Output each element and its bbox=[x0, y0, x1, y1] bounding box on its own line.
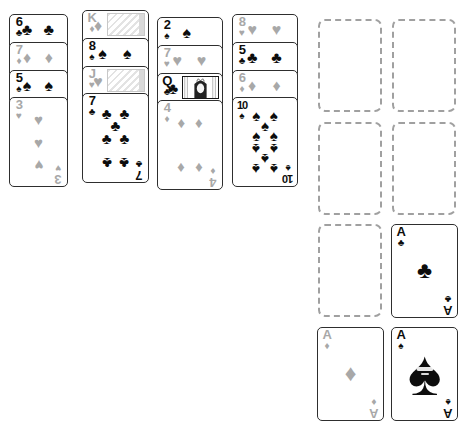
card-4-diamonds[interactable]: 4♦♦♦♦♦4♦ bbox=[157, 100, 223, 190]
clubs-pip-icon: ♣ bbox=[102, 156, 112, 171]
card-A-clubs[interactable]: A♣♣A♣ bbox=[391, 224, 458, 318]
tableau-pile-2: K♦♦8♠♠♠J♥♥7♣♣♣♣♣♣♣♣7♣ bbox=[82, 10, 149, 183]
card-rank-label: A bbox=[441, 304, 455, 316]
diamonds-pip-icon: ♦ bbox=[94, 18, 102, 34]
diamonds-pip-icon: ♦ bbox=[177, 160, 185, 175]
card-rank-label: 3 bbox=[51, 173, 65, 185]
card-corner-index-inverted: 10♠ bbox=[281, 164, 295, 185]
face-card-artwork bbox=[107, 13, 145, 36]
card-A-diamonds[interactable]: A♦♦A♦ bbox=[317, 327, 384, 421]
clubs-pip-icon: ♣ bbox=[120, 156, 130, 171]
diamonds-pip-icon: ♦ bbox=[195, 115, 203, 130]
diamonds-pip-icon: ♦ bbox=[345, 362, 357, 385]
hearts-pip-icon: ♥ bbox=[197, 53, 207, 69]
hearts-pip-icon: ♥ bbox=[34, 135, 43, 150]
hearts-pip-icon: ♥ bbox=[34, 157, 43, 172]
spades-pip-icon: ♠ bbox=[45, 78, 54, 94]
clubs-icon: ♣ bbox=[132, 160, 146, 169]
card-corner-index-inverted: A♦ bbox=[367, 398, 381, 419]
card-corner-index-inverted: A♣ bbox=[441, 295, 455, 316]
card-corner-index-inverted: A♠ bbox=[441, 398, 455, 419]
face-card-artwork bbox=[107, 69, 145, 92]
diamonds-icon: ♦ bbox=[206, 167, 220, 176]
tableau-pile-1: 6♣♣♣7♦♦♦5♠♠♠3♥♥♥♥3♥ bbox=[9, 14, 68, 187]
cell-r1-c2[interactable] bbox=[392, 19, 456, 112]
clubs-pip-icon: ♣ bbox=[120, 131, 130, 146]
diamonds-pip-icon: ♦ bbox=[195, 160, 203, 175]
card-3-hearts[interactable]: 3♥♥♥♥3♥ bbox=[9, 97, 68, 187]
spades-icon: ♠ bbox=[160, 31, 174, 40]
clubs-pip-icon: ♣ bbox=[417, 259, 432, 282]
card-rank-label: 4 bbox=[206, 176, 220, 188]
spades-pip-icon: ♠ bbox=[23, 78, 32, 94]
card-corner-index-inverted: 4♦ bbox=[206, 167, 220, 188]
spades-pip-icon: ♠ bbox=[183, 25, 192, 41]
hearts-pip-icon: ♥ bbox=[272, 22, 282, 38]
tableau-pile-4: 8♥♥♥5♣♣♣6♦♦♦10♠♠♠♠♠♠♠♠♠♠♠10♠ bbox=[232, 14, 298, 187]
clubs-pip-icon: ♣ bbox=[22, 22, 33, 38]
spades-pip-icon: ♠ bbox=[261, 152, 269, 167]
diamonds-pip-icon: ♦ bbox=[248, 78, 256, 94]
cell-r2-c1[interactable] bbox=[318, 122, 382, 215]
spades-pip-icon: ♠ bbox=[252, 141, 260, 156]
diamonds-pip-icon: ♦ bbox=[272, 78, 280, 94]
spades-pip-icon: ♠ bbox=[261, 117, 269, 132]
spades-pip-icon: ♠ bbox=[252, 108, 260, 123]
hearts-pip-icon: ♥ bbox=[172, 53, 182, 69]
card-corner-index-inverted: 7♣ bbox=[132, 160, 146, 181]
spade-ornament-small bbox=[421, 373, 429, 375]
spades-pip-icon: ♠ bbox=[270, 141, 278, 156]
cell-r3-c1[interactable] bbox=[318, 224, 382, 317]
spades-pip-icon: ♠ bbox=[98, 46, 107, 62]
hearts-pip-icon: ♥ bbox=[247, 22, 257, 38]
clubs-pip-icon: ♣ bbox=[44, 22, 55, 38]
hearts-pip-icon: ♥ bbox=[93, 74, 103, 90]
diamonds-pip-icon: ♦ bbox=[177, 115, 185, 130]
card-7-clubs[interactable]: 7♣♣♣♣♣♣♣♣7♣ bbox=[82, 93, 149, 183]
spades-pip-icon: ♠ bbox=[252, 161, 260, 176]
diamonds-pip-icon: ♦ bbox=[45, 50, 53, 66]
card-A-spades[interactable]: A♠♠A♠ bbox=[391, 327, 458, 421]
spades-icon: ♠ bbox=[85, 52, 99, 61]
card-corner-index: 6♦ bbox=[235, 72, 249, 93]
cell-r1-c1[interactable] bbox=[318, 19, 382, 112]
tableau-pile-3: 2♠♠7♥♥♥Q♣♣4♦♦♦♦♦4♦ bbox=[157, 17, 223, 190]
clubs-pip-icon: ♣ bbox=[120, 105, 130, 120]
hearts-icon: ♥ bbox=[51, 164, 65, 173]
card-corner-index: 2♠ bbox=[160, 19, 174, 40]
hearts-pip-icon: ♥ bbox=[34, 112, 43, 127]
card-corner-index: 8♠ bbox=[85, 40, 99, 61]
card-rank-label: A bbox=[367, 407, 381, 419]
card-10-spades[interactable]: 10♠♠♠♠♠♠♠♠♠♠♠10♠ bbox=[232, 97, 298, 187]
card-rank-label: 7 bbox=[132, 169, 146, 181]
solitaire-table: 6♣♣♣7♦♦♦5♠♠♠3♥♥♥♥3♥K♦♦8♠♠♠J♥♥7♣♣♣♣♣♣♣♣7♣… bbox=[0, 0, 475, 436]
cell-r2-c2[interactable] bbox=[392, 122, 456, 215]
card-rank-label: A bbox=[441, 407, 455, 419]
diamonds-icon: ♦ bbox=[235, 84, 249, 93]
spades-icon: ♠ bbox=[281, 164, 295, 173]
card-corner-index-inverted: 3♥ bbox=[51, 164, 65, 185]
diamonds-pip-icon: ♦ bbox=[23, 50, 31, 66]
spade-ornament bbox=[416, 367, 433, 371]
clubs-pip-icon: ♣ bbox=[168, 81, 179, 97]
spades-pip-icon: ♠ bbox=[123, 46, 132, 62]
queen-portrait bbox=[182, 76, 219, 99]
clubs-pip-icon: ♣ bbox=[247, 50, 258, 66]
clubs-pip-icon: ♣ bbox=[271, 50, 282, 66]
card-rank-label: 10 bbox=[281, 173, 295, 185]
spades-pip-icon: ♠ bbox=[270, 161, 278, 176]
clubs-pip-icon: ♣ bbox=[102, 131, 112, 146]
spades-pip-icon: ♠ bbox=[270, 108, 278, 123]
